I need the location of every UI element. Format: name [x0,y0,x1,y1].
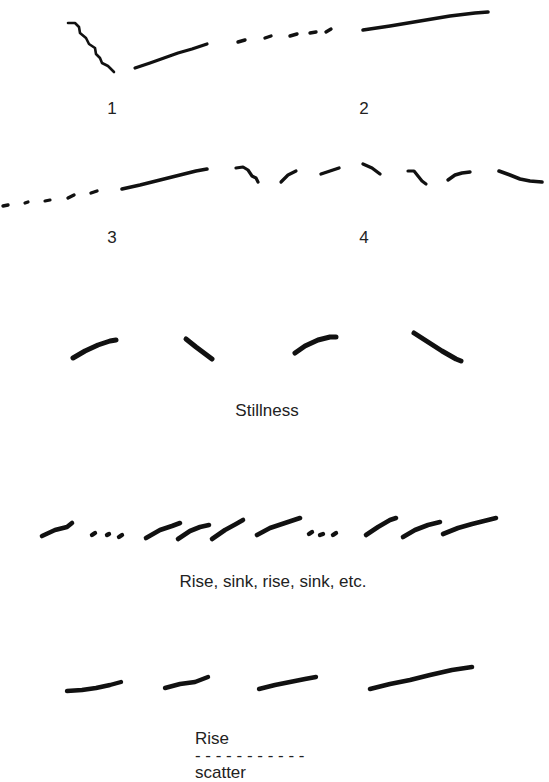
ink-stroke [448,172,470,180]
ink-stroke [119,535,122,537]
ink-stroke [178,525,209,539]
ink-stroke [363,12,488,30]
ink-stroke [68,23,114,72]
label-3: 3 [107,229,116,246]
label-2: 2 [359,100,368,117]
ink-stroke [236,167,258,182]
ink-stroke [370,667,472,689]
panel-2-strokes [238,12,488,42]
ink-stroke [67,682,121,691]
ink-stroke [92,533,95,535]
ink-stroke [238,40,245,42]
stillness-strokes [73,333,461,361]
label-1: 1 [107,100,116,117]
panel-4-strokes [236,164,542,184]
ink-stroke [42,523,72,536]
ink-stroke [257,518,300,535]
label-rise-scatter: Rise - - - - - - - - - - - scatter [186,713,305,781]
label-stillness: Stillness [235,402,298,419]
ink-stroke [320,534,323,535]
ink-stroke [212,520,243,539]
ink-stroke [25,202,28,203]
ink-stroke [333,533,336,535]
rise-sink-strokes [42,518,496,539]
ink-stroke [265,36,271,38]
ink-stroke [366,518,396,535]
label-scatter: scatter [195,763,246,782]
ink-stroke [165,677,208,688]
ink-stroke [499,171,542,182]
ink-stroke [403,522,440,537]
ink-stroke [290,34,297,36]
ink-stroke [45,200,50,201]
ink-stroke [443,518,496,534]
ink-stroke [326,29,331,32]
panel-3-strokes [3,169,207,206]
ink-stroke [414,333,461,361]
ink-stroke [281,171,296,182]
ink-stroke [135,44,207,68]
ink-stroke [73,340,116,358]
ink-stroke [91,191,97,193]
label-rise-sink: Rise, sink, rise, sink, etc. [179,573,366,590]
ink-stroke [309,532,312,534]
ink-stroke [122,169,207,189]
ink-stroke [321,168,339,174]
ink-stroke [68,195,74,198]
ink-stroke [295,337,336,353]
ink-stroke [408,171,426,184]
ink-stroke [310,32,316,33]
ink-stroke [186,339,212,359]
ink-stroke [3,205,8,206]
panel-1-strokes [68,23,207,72]
ink-stroke [146,523,180,538]
label-4: 4 [359,229,368,246]
ink-stroke [363,164,380,174]
ink-stroke [107,534,109,535]
rise-scatter-strokes [67,667,472,691]
ink-stroke [259,677,316,689]
